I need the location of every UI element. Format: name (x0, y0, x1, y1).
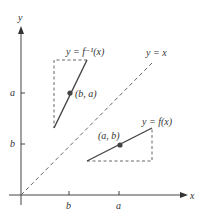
inverse-point-label: (b, a) (75, 88, 97, 100)
inverse-function-diagram: x y b a a b y = x (b, a) y = f⁻¹(x) (a, … (0, 0, 206, 219)
y-tick-label-b: b (10, 138, 15, 149)
y-tick-label-a: a (10, 87, 15, 98)
x-axis-arrow-icon (180, 192, 188, 198)
inverse-label: y = f⁻¹(x) (65, 46, 105, 58)
function-point (117, 142, 122, 147)
y-axis-arrow-icon (18, 26, 24, 34)
inverse-point (67, 90, 72, 95)
function-label: y = f(x) (141, 116, 173, 128)
identity-label: y = x (145, 47, 167, 58)
x-tick-label-b: b (66, 200, 71, 211)
identity-line (21, 62, 153, 195)
function-point-label: (a, b) (98, 130, 120, 142)
y-axis-label: y (17, 12, 23, 23)
x-axis-label: x (189, 190, 195, 201)
x-tick-label-a: a (116, 200, 121, 211)
